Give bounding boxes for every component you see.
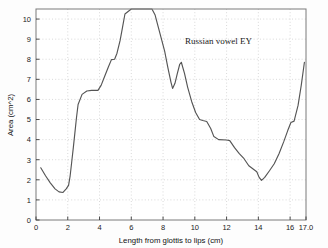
y-tick-label: 1 (27, 196, 31, 205)
chart-figure: 024681012141617.0 012345678910 Length fr… (0, 0, 328, 248)
y-tick-label: 6 (27, 95, 31, 104)
y-tick-label: 2 (27, 176, 31, 185)
x-tick-label: 16 (286, 223, 294, 232)
x-tick-label: 2 (66, 223, 70, 232)
x-axis-tick-labels: 024681012141617.0 (34, 223, 313, 232)
x-tick-label: 12 (222, 223, 230, 232)
y-tick-label: 10 (23, 15, 31, 24)
area-function-line-chart: 024681012141617.0 012345678910 Length fr… (0, 0, 328, 248)
x-tick-label: 10 (191, 223, 199, 232)
x-tick-label: 6 (129, 223, 133, 232)
x-tick-label: 4 (97, 223, 101, 232)
y-tick-label: 8 (27, 55, 31, 64)
y-tick-label: 0 (27, 216, 31, 225)
x-tick-label: 14 (254, 223, 262, 232)
x-axis-title: Length from glottis to lips (cm) (119, 236, 224, 245)
y-axis-tick-labels: 012345678910 (23, 15, 31, 225)
chart-annotation: Russian vowel EY (185, 36, 252, 46)
y-axis-title: Area (cm^2) (6, 93, 15, 136)
y-tick-label: 4 (27, 135, 31, 144)
x-tick-label: 0 (34, 223, 38, 232)
y-tick-label: 3 (27, 156, 31, 165)
y-tick-label: 9 (27, 35, 31, 44)
y-tick-label: 7 (27, 75, 31, 84)
x-tick-label: 8 (161, 223, 165, 232)
x-tick-label: 17.0 (299, 223, 314, 232)
y-tick-label: 5 (27, 115, 31, 124)
